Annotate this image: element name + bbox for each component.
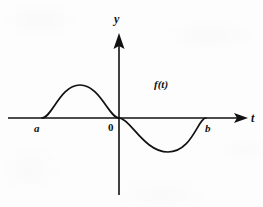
function-label: f(t) — [154, 79, 168, 90]
left-root-label-a: a — [34, 123, 40, 134]
t-axis-label: t — [251, 112, 254, 124]
plot-canvas — [0, 0, 263, 207]
y-axis — [114, 33, 125, 195]
y-axis-label: y — [114, 13, 119, 25]
right-root-label-b: b — [205, 123, 211, 134]
function-graph-figure: y t a 0 b f(t) — [0, 0, 263, 207]
origin-label-zero: 0 — [108, 122, 114, 133]
